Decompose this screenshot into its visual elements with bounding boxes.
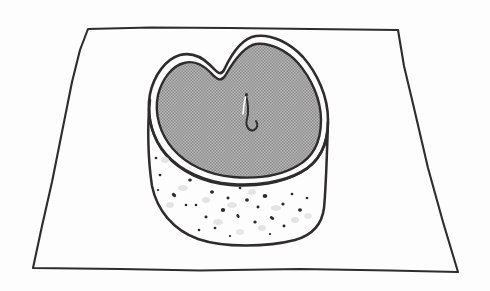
wax-top-surface	[157, 44, 321, 178]
wick-tip	[245, 93, 248, 96]
illustration-canvas: Heart-shaped candle on a placemat Hand-d…	[0, 0, 490, 291]
heart-shaped-candle	[148, 36, 328, 246]
heart-candle-drawing: Heart-shaped candle on a placemat Hand-d…	[0, 0, 490, 291]
